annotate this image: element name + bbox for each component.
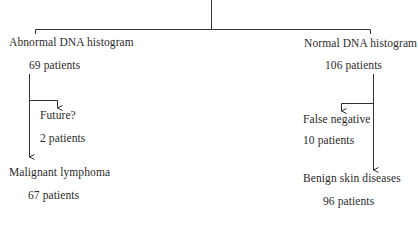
false-negative-title: False negative <box>303 113 371 126</box>
future-count: 2 patients <box>40 132 85 145</box>
benign-title: Benign skin diseases <box>303 172 401 185</box>
lymphoma-count: 67 patients <box>28 189 79 202</box>
normal-count: 106 patients <box>325 59 382 72</box>
abnormal-to-future-arrow <box>30 101 58 109</box>
benign-count: 96 patients <box>323 195 374 208</box>
abnormal-count: 69 patients <box>29 59 80 72</box>
normal-title: Normal DNA histogram <box>304 37 417 50</box>
lymphoma-title: Malignant lymphoma <box>9 166 110 179</box>
false-negative-count: 10 patients <box>303 134 354 147</box>
abnormal-title: Abnormal DNA histogram <box>9 36 134 49</box>
future-title: Future? <box>40 109 76 122</box>
normal-to-false-negative-arrow <box>342 104 374 112</box>
